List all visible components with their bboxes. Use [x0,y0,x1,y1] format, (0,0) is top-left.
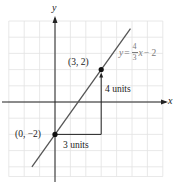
axes [2,16,168,182]
x-axis-arrow-icon [161,100,168,105]
data-point [99,67,104,72]
line-equation: y = 4 3 x − 2 [119,43,156,62]
coordinate-plane [0,0,176,189]
y-axis-label: y [52,3,56,13]
point-label-0-neg2: (0, −2) [15,130,41,140]
equation-intercept: − 2 [144,48,156,58]
equation-lhs: y [119,48,123,58]
slope-fraction: 4 3 [132,43,138,62]
equation-equals: = [124,48,129,58]
slope-denominator: 3 [133,54,137,62]
point-label-3-2: (3, 2) [68,58,89,68]
slope-numerator: 4 [133,43,137,51]
data-point [52,132,57,137]
rise-arrow-icon [99,73,103,78]
y-axis-arrow-icon [53,16,58,23]
rise-label: 4 units [105,85,131,95]
x-axis-label: x [168,96,172,106]
run-label: 3 units [63,141,89,151]
equation-variable: x [139,48,143,58]
graph-figure: y x (3, 2) (0, −2) 4 units 3 units y = 4… [0,0,176,189]
